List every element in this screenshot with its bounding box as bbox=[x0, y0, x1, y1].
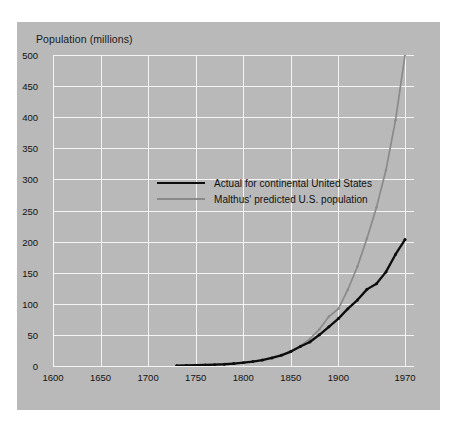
data-point-marker bbox=[309, 338, 311, 340]
y-axis-tick-label: 0 bbox=[33, 361, 38, 372]
data-point-marker bbox=[337, 308, 339, 310]
data-point-marker bbox=[375, 206, 377, 208]
data-point-marker bbox=[356, 265, 358, 267]
data-point-marker bbox=[384, 270, 387, 273]
gridline-horizontal bbox=[53, 366, 414, 367]
data-point-marker bbox=[347, 288, 349, 290]
data-point-marker bbox=[242, 361, 245, 364]
x-axis-tick-label: 1900 bbox=[328, 372, 349, 383]
y-axis-tick-label: 200 bbox=[22, 236, 38, 247]
x-axis-tick-label: 1850 bbox=[280, 372, 301, 383]
data-point-marker bbox=[346, 307, 349, 310]
legend-label-actual: Actual for continental United States bbox=[214, 178, 372, 189]
data-point-marker bbox=[175, 364, 178, 366]
series-line bbox=[177, 240, 405, 366]
y-axis-tick-label: 350 bbox=[22, 143, 38, 154]
y-axis-tick-label: 250 bbox=[22, 205, 38, 216]
plot-area: Actual for continental United States Mal… bbox=[53, 55, 414, 366]
y-axis-tick-label: 400 bbox=[22, 112, 38, 123]
chart-figure: Population (millions) Actual for contine… bbox=[0, 0, 457, 431]
data-point-marker bbox=[404, 238, 407, 241]
series-line bbox=[177, 55, 405, 366]
data-point-marker bbox=[299, 345, 302, 348]
data-point-marker bbox=[375, 282, 378, 285]
y-axis-tick-label: 50 bbox=[27, 329, 38, 340]
x-axis-tick-label: 1970 bbox=[394, 372, 415, 383]
x-axis-tick-label: 1600 bbox=[42, 372, 63, 383]
y-axis-tick-label: 450 bbox=[22, 81, 38, 92]
data-point-marker bbox=[318, 333, 321, 336]
data-point-marker bbox=[280, 354, 283, 357]
chart-legend: Actual for continental United States Mal… bbox=[157, 175, 372, 207]
data-point-marker bbox=[365, 288, 368, 291]
y-axis-tick-label: 300 bbox=[22, 174, 38, 185]
legend-item-malthus: Malthus' predicted U.S. population bbox=[157, 191, 372, 207]
data-point-marker bbox=[327, 325, 330, 328]
data-point-marker bbox=[232, 362, 235, 365]
y-axis-tick-label: 150 bbox=[22, 267, 38, 278]
data-point-marker bbox=[308, 340, 311, 343]
data-point-marker bbox=[261, 359, 264, 362]
data-point-marker bbox=[223, 363, 226, 366]
legend-swatch-malthus bbox=[157, 198, 205, 200]
legend-item-actual: Actual for continental United States bbox=[157, 175, 372, 191]
data-point-marker bbox=[385, 169, 387, 171]
data-point-marker bbox=[185, 364, 188, 366]
y-axis-title: Population (millions) bbox=[36, 33, 133, 45]
x-axis-tick-label: 1700 bbox=[138, 372, 159, 383]
x-axis-tick-label: 1650 bbox=[90, 372, 111, 383]
y-axis-tick-label: 500 bbox=[22, 50, 38, 61]
y-axis-tick-label: 100 bbox=[22, 298, 38, 309]
x-axis-tick-label: 1800 bbox=[233, 372, 254, 383]
legend-label-malthus: Malthus' predicted U.S. population bbox=[214, 194, 368, 205]
data-point-marker bbox=[366, 237, 368, 239]
data-point-marker bbox=[356, 299, 359, 302]
data-point-marker bbox=[251, 360, 254, 363]
data-point-marker bbox=[328, 315, 330, 317]
data-point-marker bbox=[289, 350, 292, 353]
data-point-marker bbox=[394, 119, 396, 121]
data-point-marker bbox=[318, 328, 320, 330]
data-point-marker bbox=[394, 253, 397, 256]
series-layer bbox=[53, 55, 414, 366]
data-point-marker bbox=[270, 356, 273, 359]
legend-swatch-actual bbox=[157, 182, 205, 184]
data-point-marker bbox=[337, 317, 340, 320]
x-axis-tick-label: 1750 bbox=[185, 372, 206, 383]
